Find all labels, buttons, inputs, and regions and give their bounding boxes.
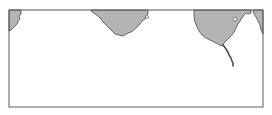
lake-marker [146, 16, 149, 19]
lake-marker [233, 17, 237, 21]
map-canvas [0, 0, 272, 115]
